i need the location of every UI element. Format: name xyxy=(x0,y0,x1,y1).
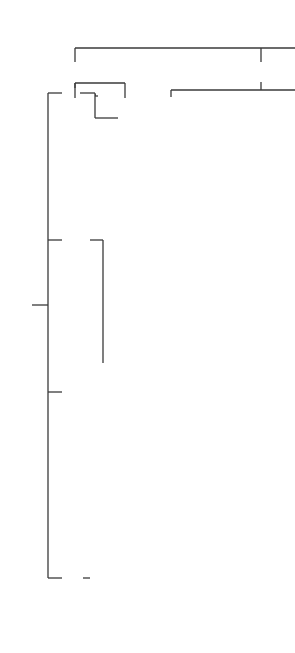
connector-lines xyxy=(0,0,295,295)
